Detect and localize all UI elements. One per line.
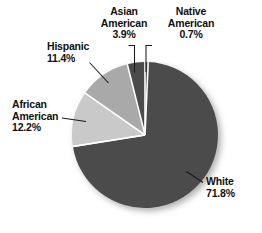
slice-label-white-line1: White	[206, 175, 234, 187]
pie-chart: Asian American 3.9% Native American 0.7%…	[0, 0, 262, 233]
slice-label-african-american-line2: American	[12, 110, 58, 122]
slice-value-asian-american: 3.9%	[92, 29, 156, 41]
slice-label-white: White 71.8%	[206, 176, 258, 199]
slice-label-asian-american-line2: American	[101, 17, 147, 29]
slice-label-hispanic-line1: Hispanic	[47, 40, 89, 52]
slice-label-native-american-line2: American	[168, 17, 214, 29]
slice-label-native-american: Native American 0.7%	[159, 6, 223, 41]
slice-label-african-american: African American 12.2%	[12, 99, 78, 134]
slice-value-hispanic: 11.4%	[47, 53, 107, 65]
slice-label-asian-american-line1: Asian	[110, 5, 138, 17]
slice-value-white: 71.8%	[206, 188, 258, 200]
slice-label-native-american-line1: Native	[176, 5, 206, 17]
slice-value-native-american: 0.7%	[159, 29, 223, 41]
slice-value-african-american: 12.2%	[12, 122, 78, 134]
slice-label-asian-american: Asian American 3.9%	[92, 6, 156, 41]
slice-label-hispanic: Hispanic 11.4%	[47, 41, 107, 64]
slice-label-african-american-line1: African	[12, 98, 47, 110]
